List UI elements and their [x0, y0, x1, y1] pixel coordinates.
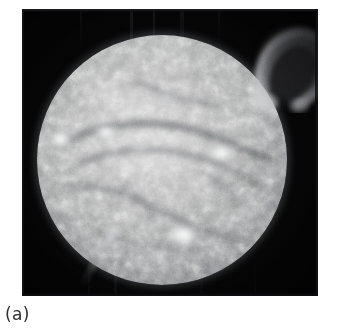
- plage-east: [238, 133, 264, 153]
- plate-edge-top: [22, 9, 318, 12]
- active-region-north-central: [128, 139, 154, 155]
- plate-edge-bottom: [22, 293, 318, 296]
- figure-root: (a): [0, 0, 338, 330]
- active-region-south-east: [231, 202, 255, 220]
- plate-edge-right: [315, 9, 318, 296]
- solar-granulation-texture: [37, 35, 287, 285]
- limb-brightening-ring: [37, 35, 287, 285]
- solar-filaments: [37, 35, 287, 285]
- plage-south: [134, 249, 164, 265]
- plage-north-east: [195, 106, 223, 120]
- solar-active-regions: [37, 35, 287, 285]
- active-region-south-central: [162, 220, 204, 250]
- solar-disk: [37, 35, 287, 285]
- solar-image-plate: [22, 9, 318, 296]
- figure-caption: (a): [5, 303, 30, 325]
- active-region-south-west: [100, 221, 126, 241]
- active-region-east-central: [201, 140, 241, 166]
- active-region-west-limb: [46, 127, 74, 151]
- solar-supergranulation: [37, 35, 287, 285]
- active-region-north-west: [89, 121, 123, 143]
- plage-north: [147, 88, 183, 106]
- plage-centre: [158, 174, 180, 188]
- plate-edge-left: [22, 9, 24, 296]
